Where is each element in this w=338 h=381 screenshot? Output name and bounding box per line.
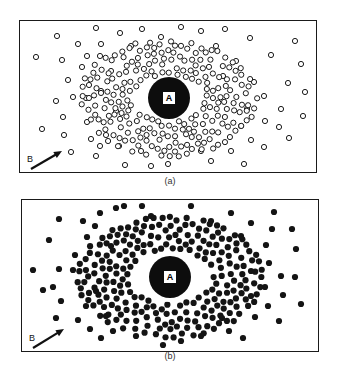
particle [224, 290, 230, 296]
particle [115, 305, 121, 311]
particle [56, 266, 62, 272]
particle [157, 325, 163, 331]
particle [105, 312, 111, 318]
particle [254, 291, 260, 297]
particle [184, 215, 190, 221]
particle [129, 252, 135, 258]
particle [172, 309, 178, 315]
particle [113, 205, 119, 211]
particle [107, 259, 113, 265]
particle [125, 224, 131, 230]
particle [228, 210, 234, 216]
particle [263, 242, 269, 248]
particle [113, 295, 119, 301]
particle [201, 330, 207, 336]
particle [200, 217, 206, 223]
particle [252, 269, 258, 275]
particle [133, 318, 139, 324]
particle [203, 289, 209, 295]
particle [134, 245, 140, 251]
particle [144, 304, 150, 310]
particle [30, 267, 36, 273]
particle [144, 323, 150, 329]
particle [219, 236, 225, 242]
particle [211, 326, 217, 332]
particle [150, 303, 156, 309]
particle [203, 249, 209, 255]
particle [184, 317, 190, 323]
particle [195, 233, 201, 239]
particle [46, 237, 52, 243]
particle [266, 260, 272, 266]
particle [109, 227, 115, 233]
particle [141, 330, 147, 336]
particle [204, 323, 210, 329]
particle [115, 232, 121, 238]
particle [233, 240, 239, 246]
particle [202, 256, 208, 262]
particle [171, 334, 177, 340]
particle [218, 265, 224, 271]
particle [132, 326, 138, 332]
particle [132, 309, 138, 315]
particle [145, 298, 151, 304]
particle [160, 342, 166, 348]
particle [213, 242, 219, 248]
particle [189, 221, 195, 227]
particle [202, 313, 208, 319]
particle [289, 226, 295, 232]
particle [226, 253, 232, 259]
particle [50, 284, 56, 290]
particle [243, 296, 249, 302]
particle [238, 290, 244, 296]
particle [258, 274, 264, 280]
particle [113, 240, 119, 246]
particle [213, 281, 219, 287]
particle [138, 309, 144, 315]
particle [243, 285, 249, 291]
particle [184, 325, 190, 331]
particle [200, 238, 206, 244]
particle [97, 242, 103, 248]
particle [226, 328, 232, 334]
particle [221, 305, 227, 311]
particle [155, 234, 161, 240]
particle [97, 313, 103, 319]
particle [217, 312, 223, 318]
particle [224, 318, 230, 324]
particle [162, 321, 168, 327]
particle [83, 303, 89, 309]
particle [216, 257, 222, 263]
particle [95, 251, 101, 257]
particle [265, 303, 271, 309]
particle [227, 310, 233, 316]
particle [228, 271, 234, 277]
particle [178, 338, 184, 344]
particle [96, 278, 102, 284]
particle [118, 311, 124, 317]
particle [139, 229, 145, 235]
particle [156, 222, 162, 228]
particle [124, 271, 130, 277]
particle [97, 210, 103, 216]
particle [240, 335, 246, 341]
particle [117, 283, 123, 289]
particle [87, 326, 93, 332]
particle [239, 271, 245, 277]
particle [233, 247, 239, 253]
particle [164, 311, 170, 317]
particle [75, 317, 81, 323]
particle [127, 241, 133, 247]
particle [173, 217, 179, 223]
particle [192, 318, 198, 324]
particle [97, 299, 103, 305]
particle [169, 319, 175, 325]
particle [183, 241, 189, 247]
particle [104, 252, 110, 258]
particle [144, 314, 150, 320]
particle [278, 273, 284, 279]
particle [251, 280, 257, 286]
particle [99, 258, 105, 264]
particle [90, 302, 96, 308]
particle [140, 249, 146, 255]
